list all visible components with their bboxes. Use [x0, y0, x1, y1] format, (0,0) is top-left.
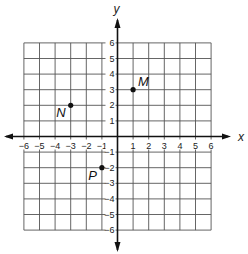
y-tick-label: 6	[109, 38, 114, 48]
point-label-p: P	[88, 168, 97, 183]
y-axis-down-arrow-icon	[115, 242, 121, 252]
x-tick-label: 2	[146, 141, 151, 151]
y-tick-label: −2	[104, 163, 114, 173]
y-tick-label: −6	[104, 225, 114, 235]
y-tick-label: 2	[109, 100, 114, 110]
point-n	[68, 103, 73, 108]
y-tick-label: 5	[109, 54, 114, 64]
x-tick-label: 1	[131, 141, 136, 151]
x-tick-label: 3	[162, 141, 167, 151]
point-label-m: M	[138, 74, 149, 89]
point-label-n: N	[56, 105, 66, 120]
y-tick-label: −3	[104, 178, 114, 188]
y-axis-up-arrow-icon	[115, 18, 121, 28]
point-p	[99, 165, 104, 170]
y-tick-label: 3	[109, 85, 114, 95]
x-tick-label: 5	[193, 141, 198, 151]
x-tick-label: 4	[177, 141, 182, 151]
y-tick-label: 4	[109, 69, 114, 79]
x-tick-label: −4	[50, 141, 60, 151]
coordinate-plane: xy−6−5−4−3−2−1123456654321−1−2−3−4−5−6MN…	[0, 0, 248, 254]
y-tick-label: 1	[109, 116, 114, 126]
y-axis-label: y	[113, 2, 121, 16]
x-tick-label: 6	[209, 141, 214, 151]
x-axis-right-arrow-icon	[222, 134, 231, 140]
x-tick-label: −2	[81, 141, 91, 151]
y-tick-label: −5	[104, 210, 114, 220]
point-m	[131, 87, 136, 92]
x-tick-label: −6	[19, 141, 29, 151]
y-tick-label: −4	[104, 194, 114, 204]
y-tick-label: −1	[104, 147, 114, 157]
x-axis-label: x	[237, 130, 245, 144]
x-tick-label: −5	[34, 141, 44, 151]
x-tick-label: −3	[66, 141, 76, 151]
x-axis-left-arrow-icon	[4, 134, 13, 140]
